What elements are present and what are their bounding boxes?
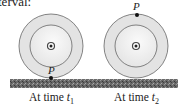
ground-surface [10,79,178,88]
caption-t2: At time t2 [114,91,159,106]
point-p-label-t2: P [133,0,140,12]
caption-t1: At time t1 [29,91,74,106]
caption-prefix: At time [29,91,67,103]
point-p-marker [135,13,139,17]
point-p-marker [49,76,53,80]
wheel-axle [135,45,138,48]
point-p-label-t1: P [48,64,55,76]
time-subscript: 2 [155,97,159,106]
wheel-at-t2 [104,13,168,78]
caption-prefix: At time [114,91,152,103]
wheel-axle [50,45,53,48]
time-subscript: 1 [70,97,74,106]
